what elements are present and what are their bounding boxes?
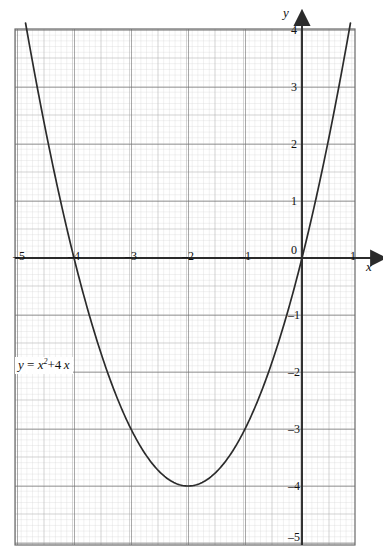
x-tick-label--5: –5: [13, 250, 25, 262]
y-tick-label-4: 4: [291, 24, 297, 36]
y-tick-label--3: –3: [288, 423, 300, 435]
y-axis-label: y: [283, 6, 289, 19]
y-tick-label--2: –2: [288, 366, 300, 378]
y-tick-label--1: –1: [288, 309, 300, 321]
equation-coefficient: 4: [55, 357, 62, 372]
y-tick-label--4: –4: [288, 480, 300, 492]
y-tick-label--5: –5: [288, 531, 300, 543]
equation-plus: +: [47, 357, 54, 372]
graph-figure: –5 –4 –3 –2 –1 1 0 4 3 2 1 –1 –2 –3 –4 –…: [0, 0, 383, 557]
y-tick-label-3: 3: [291, 81, 297, 93]
x-tick-label--1: –1: [239, 250, 251, 262]
x-tick-label--3: –3: [125, 250, 137, 262]
x-tick-label--4: –4: [68, 250, 80, 262]
equation-equals: =: [27, 357, 34, 372]
y-tick-label-2: 2: [291, 138, 297, 150]
coordinate-plane: [0, 0, 383, 557]
grid-layer: [15, 29, 355, 545]
equation-variable: x: [64, 357, 70, 372]
x-axis-label: x: [366, 260, 372, 273]
x-tick-label--2: –2: [182, 250, 194, 262]
x-tick-label-1: 1: [350, 250, 356, 262]
equation-annotation: y = x2+4 x: [15, 357, 73, 374]
y-tick-label-1: 1: [291, 195, 297, 207]
origin-label: 0: [291, 244, 297, 256]
